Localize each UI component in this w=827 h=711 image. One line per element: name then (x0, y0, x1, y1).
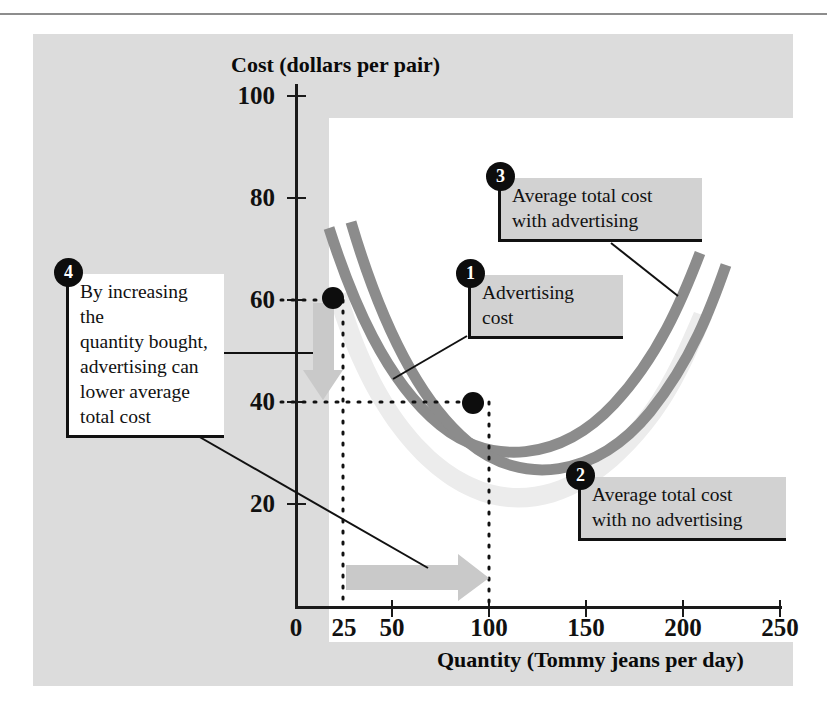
callout-3-text: Average total cost with advertising (501, 178, 702, 239)
callout-4-leader-diagonal (170, 420, 428, 568)
point-25-60 (322, 287, 344, 309)
callout-2-text: Average total cost with no advertising (581, 477, 786, 538)
callout-4[interactable]: 4 By increasing the quantity bought, adv… (66, 274, 224, 438)
point-100-40 (462, 392, 484, 414)
callout-3[interactable]: 3 Average total cost with advertising (498, 178, 702, 242)
callout-1[interactable]: 1 Advertising cost (468, 275, 623, 339)
callout-4-text: By increasing the quantity bought, adver… (69, 274, 224, 435)
callout-3-badge: 3 (486, 162, 515, 191)
callout-1-badge: 1 (456, 259, 485, 288)
callout-4-badge: 4 (54, 258, 83, 287)
figure-page: Cost (dollars per pair) Quantity (Tommy … (0, 0, 827, 711)
callout-1-text: Advertising cost (471, 275, 623, 336)
callout-2-badge: 2 (566, 461, 595, 490)
callout-2[interactable]: 2 Average total cost with no advertising (578, 477, 786, 541)
